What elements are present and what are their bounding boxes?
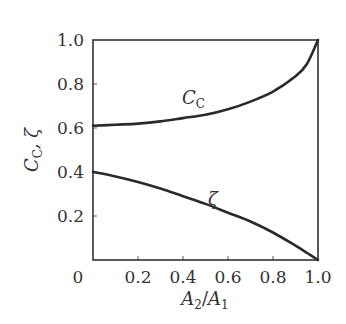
x-tick-label: 0.6	[214, 267, 241, 287]
x-tick-label: 0.4	[169, 267, 196, 287]
plot-frame	[93, 40, 318, 260]
x-tick-label: 0.2	[124, 267, 151, 287]
y-tick-label: 0.8	[57, 74, 84, 94]
curve-zeta	[93, 172, 318, 260]
x-tick-label: 0.8	[259, 267, 286, 287]
x-tick-label: 0	[73, 267, 84, 287]
y-tick-label: 0.2	[57, 206, 84, 226]
y-tick-label: 1.0	[57, 30, 84, 50]
x-axis-label: A2/A1	[179, 288, 228, 312]
x-tick-label: 1.0	[304, 267, 331, 287]
curves	[93, 40, 318, 260]
tick-labels: 00.20.40.60.81.00.20.40.60.81.0	[57, 30, 332, 287]
y-axis-label: CC, ζ	[21, 127, 45, 172]
y-tick-label: 0.6	[57, 118, 84, 138]
curve-label-cc: CC	[182, 87, 205, 111]
axis-ticks	[93, 84, 273, 260]
y-tick-label: 0.4	[57, 162, 84, 182]
curve-label-zeta: ζ	[208, 188, 219, 209]
curve-cc	[93, 40, 318, 126]
chart: 00.20.40.60.81.00.20.40.60.81.0 CC ζ A2/…	[0, 0, 346, 324]
